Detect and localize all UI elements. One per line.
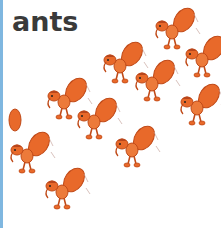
ant	[46, 164, 90, 209]
ant	[181, 80, 221, 125]
partial-ant	[9, 109, 21, 131]
ant	[186, 32, 221, 77]
flashcard: ants	[0, 0, 221, 228]
ant	[78, 94, 122, 139]
ant	[11, 128, 55, 173]
ant-swarm-illustration	[0, 0, 221, 228]
ant	[156, 4, 200, 49]
ant	[116, 122, 160, 167]
ant	[136, 56, 180, 101]
